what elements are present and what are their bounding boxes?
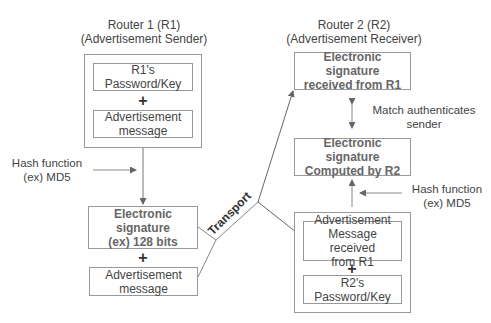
r1-password-key-box: R1's Password/Key xyxy=(93,63,193,91)
r2-received-message-box: Advertisement Message received from R1 xyxy=(303,221,402,261)
plus-sign: + xyxy=(342,262,362,276)
router1-title: Router 1 (R1) (Advertisement Sender) xyxy=(70,18,218,46)
r1-electronic-signature-box: Electronic signature (ex) 128 bits xyxy=(88,206,198,249)
r2-computed-signature-box: Electronic signature Computed by R2 xyxy=(294,138,411,176)
r2-password-key-box: R2's Password/Key xyxy=(303,275,402,304)
plus-sign: + xyxy=(133,251,153,265)
plus-sign: + xyxy=(133,94,153,108)
r2-received-signature-box: Electronic signature received from R1 xyxy=(294,52,411,90)
r2-hash-function-label: Hash function (ex) MD5 xyxy=(404,182,490,210)
router2-title: Router 2 (R2) (Advertisement Receiver) xyxy=(280,18,428,46)
r1-advertisement-message-box-2: Advertisement message xyxy=(89,267,198,296)
match-authenticates-label: Match authenticates sender xyxy=(368,103,480,131)
r1-hash-function-label: Hash function (ex) MD5 xyxy=(4,156,90,184)
r1-advertisement-message-box: Advertisement message xyxy=(93,110,193,138)
